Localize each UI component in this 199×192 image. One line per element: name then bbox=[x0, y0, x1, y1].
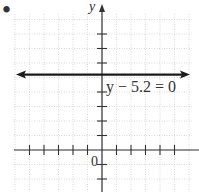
y-axis-label: y bbox=[87, 0, 96, 14]
axes bbox=[14, 4, 199, 192]
equation-label: y − 5.2 = 0 bbox=[106, 78, 176, 96]
bullet-marker: • bbox=[0, 0, 13, 23]
grid bbox=[14, 14, 192, 192]
y-axis-arrow-icon bbox=[99, 4, 105, 12]
coordinate-graph: • y 0 y − 5.2 = 0 bbox=[0, 0, 199, 192]
origin-label: 0 bbox=[91, 154, 98, 169]
